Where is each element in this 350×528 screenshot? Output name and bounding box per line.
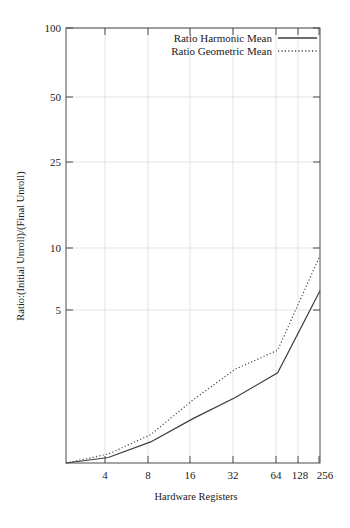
x-axis-title: Hardware Registers — [154, 491, 237, 502]
x-gridlines — [105, 28, 298, 463]
legend-label-ratio-geometric-mean: Ratio Geometric Mean — [171, 45, 272, 57]
y-tick-label-10: 10 — [50, 242, 62, 254]
plot-frame — [66, 28, 320, 463]
y-axis-title: Ratio:(Initial Unroll)/(Final Unroll) — [15, 171, 27, 321]
series-line-ratio-geometric-mean — [66, 255, 320, 463]
line-chart: 100 50 25 10 5 4 8 16 32 64 128 256 Rati… — [0, 0, 350, 528]
x-tick-labels: 4 8 16 32 64 128 256 — [102, 469, 334, 481]
x-tick-label-32: 32 — [228, 469, 239, 481]
y-tick-labels: 100 50 25 10 5 — [45, 22, 62, 316]
y-ticks — [66, 28, 320, 310]
x-tick-label-16: 16 — [185, 469, 197, 481]
chart-figure: 100 50 25 10 5 4 8 16 32 64 128 256 Rati… — [0, 0, 350, 528]
x-tick-label-8: 8 — [145, 469, 151, 481]
y-tick-label-5: 5 — [56, 304, 62, 316]
x-tick-label-128: 128 — [292, 469, 309, 481]
legend: Ratio Harmonic Mean Ratio Geometric Mean — [171, 32, 317, 57]
series-line-ratio-harmonic-mean — [66, 291, 320, 463]
y-tick-label-25: 25 — [50, 156, 62, 168]
y-gridlines — [66, 28, 320, 310]
x-ticks — [105, 28, 319, 463]
x-tick-label-64: 64 — [271, 469, 283, 481]
y-tick-label-50: 50 — [50, 91, 62, 103]
x-tick-label-256: 256 — [317, 469, 334, 481]
legend-label-ratio-harmonic-mean: Ratio Harmonic Mean — [174, 32, 273, 44]
series-group — [66, 255, 320, 463]
y-tick-label-100: 100 — [45, 22, 62, 34]
x-tick-label-4: 4 — [102, 469, 108, 481]
